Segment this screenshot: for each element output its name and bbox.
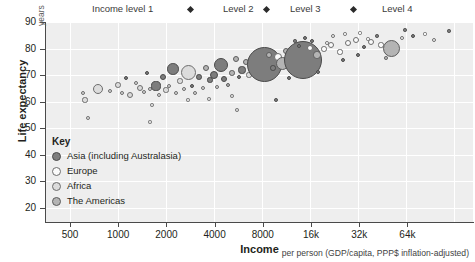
data-bubble[interactable] (307, 45, 313, 51)
gridline-vertical-8 (454, 22, 455, 222)
data-bubble[interactable] (230, 94, 234, 98)
data-bubble[interactable] (226, 83, 231, 88)
data-bubble[interactable] (356, 53, 360, 57)
data-bubble[interactable] (86, 116, 90, 120)
data-bubble[interactable] (115, 82, 121, 88)
data-bubble[interactable] (193, 91, 197, 95)
data-bubble[interactable] (167, 63, 179, 75)
data-bubble[interactable] (150, 103, 153, 106)
data-bubble[interactable] (207, 97, 210, 100)
data-bubble[interactable] (124, 76, 128, 80)
income-level-divider-1 (187, 6, 194, 13)
data-bubble[interactable] (345, 40, 351, 46)
y-tick-label-30: 30 (0, 176, 36, 186)
data-bubble[interactable] (210, 71, 218, 79)
x-tick-label-64k: 64k (377, 229, 437, 240)
legend-item-label: Europe (67, 165, 98, 177)
legend-swatch-icon (52, 152, 61, 161)
data-bubble[interactable] (293, 39, 297, 43)
data-bubble[interactable] (81, 91, 86, 96)
income-level-label-3: Level 3 (290, 2, 321, 16)
legend-item-label: Africa (67, 180, 91, 192)
data-bubble[interactable] (303, 36, 307, 40)
data-bubble[interactable] (177, 78, 182, 83)
data-bubble[interactable] (233, 56, 240, 63)
data-bubble[interactable] (167, 84, 171, 88)
data-bubble[interactable] (375, 34, 379, 38)
data-bubble[interactable] (120, 91, 124, 95)
legend-item-label: Asia (including Australasia) (67, 150, 181, 162)
y-tick-mark-50 (40, 128, 45, 129)
data-bubble[interactable] (151, 81, 160, 90)
data-bubble[interactable] (411, 34, 416, 39)
data-bubble[interactable] (447, 29, 450, 32)
data-bubble[interactable] (400, 36, 404, 40)
gridline-vertical-3 (214, 22, 215, 222)
legend-swatch-icon (52, 167, 61, 176)
data-bubble[interactable] (203, 65, 209, 71)
plot-area (46, 22, 473, 222)
data-bubble[interactable] (383, 40, 400, 57)
data-bubble[interactable] (229, 70, 235, 76)
legend-title: Key (52, 136, 70, 147)
data-bubble[interactable] (238, 66, 245, 73)
data-bubble[interactable] (310, 39, 314, 43)
data-bubble[interactable] (215, 85, 219, 89)
y-tick-mark-70 (40, 75, 45, 76)
gridline-horizontal-3 (46, 102, 473, 103)
data-bubble[interactable] (93, 84, 103, 94)
data-bubble[interactable] (274, 98, 278, 102)
data-bubble[interactable] (287, 76, 291, 80)
data-bubble[interactable] (358, 31, 361, 34)
data-bubble[interactable] (331, 34, 335, 38)
data-bubble[interactable] (423, 32, 426, 35)
data-bubble[interactable] (186, 98, 189, 101)
data-bubble[interactable] (174, 91, 178, 95)
data-bubble[interactable] (190, 84, 195, 89)
data-bubble[interactable] (325, 41, 329, 45)
x-tick-mark-500 (70, 222, 71, 227)
bubble-chart-figure: Income level 1Level 2Level 3Level 4 9080… (0, 0, 475, 262)
gridline-horizontal-6 (46, 181, 473, 182)
data-bubble[interactable] (270, 65, 276, 71)
x-tick-mark-64k (407, 222, 408, 227)
gridline-horizontal-7 (46, 208, 473, 209)
income-level-divider-2 (263, 6, 270, 13)
data-bubble[interactable] (403, 28, 406, 31)
data-bubble[interactable] (343, 32, 347, 36)
legend-swatch-icon (52, 182, 61, 191)
gridline-vertical-1 (118, 22, 119, 222)
data-bubble[interactable] (163, 87, 168, 92)
y-tick-mark-80 (40, 49, 45, 50)
data-bubble[interactable] (321, 46, 327, 52)
data-bubble[interactable] (214, 58, 228, 72)
data-bubble[interactable] (127, 92, 133, 98)
data-bubble[interactable] (221, 76, 227, 82)
data-bubble[interactable] (235, 108, 239, 112)
income-level-label-2: Level 2 (223, 2, 254, 16)
data-bubble[interactable] (237, 75, 241, 79)
data-bubble[interactable] (384, 56, 388, 60)
data-bubble[interactable] (82, 97, 87, 102)
data-bubble[interactable] (313, 51, 320, 58)
data-bubble[interactable] (201, 86, 205, 90)
x-tick-mark-32k (359, 222, 360, 227)
x-tick-mark-8000 (263, 222, 264, 227)
data-bubble[interactable] (196, 74, 202, 80)
data-bubble[interactable] (316, 70, 320, 74)
data-bubble[interactable] (142, 90, 146, 94)
income-level-divider-3 (350, 6, 357, 13)
data-bubble[interactable] (341, 58, 345, 62)
y-axis-line (45, 22, 46, 223)
data-bubble[interactable] (337, 49, 342, 54)
gridline-vertical-6 (358, 22, 359, 222)
data-bubble[interactable] (148, 120, 151, 123)
data-bubble[interactable] (157, 93, 162, 98)
y-tick-mark-30 (40, 181, 45, 182)
data-bubble[interactable] (182, 87, 186, 91)
data-bubble[interactable] (108, 89, 113, 94)
income-level-label-4: Level 4 (382, 2, 413, 16)
data-bubble[interactable] (366, 37, 369, 40)
data-bubble[interactable] (181, 65, 196, 80)
data-bubble[interactable] (432, 38, 436, 42)
